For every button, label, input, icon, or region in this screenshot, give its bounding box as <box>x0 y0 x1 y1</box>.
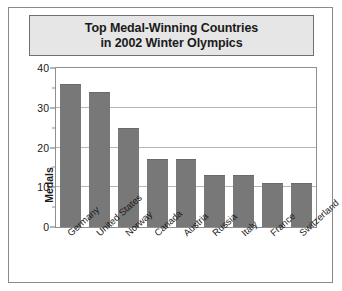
y-axis: Medals 010203040 <box>25 67 55 228</box>
y-tick-label: 0 <box>43 221 49 233</box>
chart-title-line-2: in 2002 Winter Olympics <box>100 36 242 51</box>
chart-title-line-1: Top Medal-Winning Countries <box>85 21 258 36</box>
y-tick-label: 20 <box>37 142 49 154</box>
chart-title-banner: Top Medal-Winning Countries in 2002 Wint… <box>29 15 314 56</box>
x-axis-labels: GermanyUnited StatesNorwayCanadaAustriaR… <box>55 230 317 291</box>
bar <box>60 84 81 227</box>
y-tick-label: 30 <box>37 102 49 114</box>
y-tick-label: 40 <box>37 62 49 74</box>
bars-layer <box>56 68 316 227</box>
chart-figure: Top Medal-Winning Countries in 2002 Wint… <box>8 7 333 283</box>
y-tick-label: 10 <box>37 181 49 193</box>
